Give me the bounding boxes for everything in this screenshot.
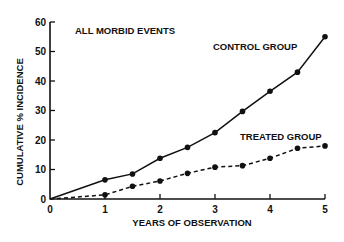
y-tick-label: 60 [35,17,47,28]
data-point [130,184,136,190]
data-point [212,164,218,170]
data-point [240,109,246,115]
data-point [240,163,246,169]
chart: 0102030405060012345 ALL MORBID EVENTS CO… [0,0,344,242]
annotation-all-morbid-events: ALL MORBID EVENTS [75,25,175,36]
x-tick-label: 3 [212,204,218,215]
data-point [322,143,328,149]
y-tick-label: 30 [35,105,47,116]
y-tick-label: 10 [35,164,47,175]
y-tick-label: 20 [35,135,47,146]
data-point [157,155,163,161]
data-point [185,171,191,177]
series-label-treated: TREATED GROUP [240,131,322,142]
x-tick-label: 1 [102,204,108,215]
data-point [322,34,328,40]
data-point [130,171,136,177]
y-tick-label: 0 [40,194,46,205]
data-point [102,177,108,183]
x-tick-label: 4 [267,204,273,215]
x-tick-label: 2 [157,204,163,215]
y-tick-label: 40 [35,76,47,87]
data-point [102,192,108,198]
data-point [267,155,273,161]
data-point [295,145,301,151]
series-label-control: CONTROL GROUP [213,41,298,52]
data-point [267,89,273,95]
data-point [185,145,191,151]
data-point [295,69,301,75]
x-tick-label: 5 [322,204,328,215]
x-axis-title: YEARS OF OBSERVATION [132,217,251,228]
data-point [212,130,218,136]
x-tick-label: 0 [47,204,53,215]
series [50,34,328,199]
y-tick-label: 50 [35,46,47,57]
data-point [157,178,163,184]
series-treated [50,143,328,199]
y-axis-title: CUMULATIVE % INCIDENCE [14,58,25,186]
